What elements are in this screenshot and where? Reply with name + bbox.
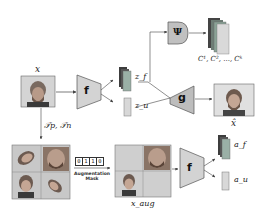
- class-outputs-label: C¹, C², ..., Cᵏ: [198, 55, 242, 63]
- arrow-f-to-au: [204, 170, 215, 177]
- input-image: [21, 76, 55, 107]
- x-aug-label: x_aug: [131, 199, 155, 208]
- arrow-f-to-zf: [101, 80, 113, 90]
- feature-au: [222, 172, 229, 190]
- input-label: x: [35, 64, 40, 74]
- class-outputs: [208, 18, 229, 54]
- encoder-bottom-label: f: [187, 161, 192, 174]
- encoder-f-top: [77, 75, 101, 109]
- arrow-zf-to-g: [138, 82, 170, 98]
- zf-label: z_f: [135, 72, 146, 81]
- arrow-f-to-zu: [101, 94, 113, 102]
- encoder-top-label: f: [84, 84, 89, 97]
- feature-zu: [124, 98, 131, 116]
- classifier-label: Ψ: [173, 26, 182, 37]
- decoder-label: g: [178, 91, 186, 104]
- encoder-f-bottom: [180, 148, 204, 188]
- arrow-f-to-af: [204, 159, 215, 166]
- feature-af: [218, 135, 230, 159]
- x-aug-grid: [115, 145, 171, 197]
- au-label: a_u: [234, 175, 248, 184]
- transforms-label: 𝒯p, 𝒯n: [44, 121, 71, 131]
- reconstruction-image: [214, 84, 254, 116]
- arrow-zf-to-psi: [150, 32, 167, 82]
- augmented-grid: [12, 145, 70, 199]
- zu-label: z_u: [135, 101, 148, 110]
- mask-label: Augmentation Mask: [70, 171, 114, 181]
- mask-label-line2: Mask: [70, 176, 114, 181]
- reconstruction-label: x̂: [231, 118, 236, 128]
- mask-bit-3: 0: [96, 157, 104, 166]
- feature-zf: [119, 67, 131, 91]
- af-label: a_f: [234, 140, 246, 149]
